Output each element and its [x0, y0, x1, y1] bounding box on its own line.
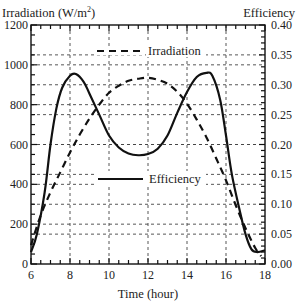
right-axis-title: Efficiency: [243, 6, 296, 20]
right-tick-label: 0.15: [271, 167, 292, 181]
left-tick-label: 800: [10, 98, 28, 112]
legend-irradiation: Irradiation: [96, 41, 206, 58]
grid-lines: [31, 25, 265, 264]
right-tick-label: 0.05: [271, 227, 292, 241]
chart: 681012141618 020040060080010001200 0.000…: [0, 0, 297, 306]
left-axis-tick-labels: 020040060080010001200: [4, 18, 28, 271]
legend-efficiency: Efficiency: [96, 171, 206, 187]
x-axis-title: Time (hour): [118, 287, 178, 301]
right-tick-label: 0.40: [271, 18, 292, 32]
left-tick-label: 1200: [4, 18, 28, 32]
left-axis-title: Irradiation (W/m2): [2, 5, 95, 20]
x-tick-label: 6: [28, 268, 34, 282]
right-tick-label: 0.30: [271, 78, 292, 92]
right-tick-label: 0.35: [271, 48, 292, 62]
x-tick-label: 10: [103, 268, 115, 282]
x-tick-label: 16: [220, 268, 232, 282]
x-tick-label: 12: [142, 268, 154, 282]
right-axis-tick-labels: 0.000.050.100.150.200.250.300.350.40: [271, 18, 292, 271]
left-tick-label: 0: [22, 257, 28, 271]
left-tick-label: 200: [10, 217, 28, 231]
right-tick-label: 0.25: [271, 108, 292, 122]
right-tick-label: 0.10: [271, 197, 292, 211]
x-tick-label: 8: [67, 268, 73, 282]
left-tick-label: 1000: [4, 58, 28, 72]
x-axis-tick-labels: 681012141618: [28, 268, 271, 282]
legend-irradiation-label: Irradiation: [148, 44, 202, 58]
right-tick-label: 0.00: [271, 257, 292, 271]
x-tick-label: 14: [181, 268, 193, 282]
left-tick-label: 400: [10, 177, 28, 191]
left-tick-label: 600: [10, 138, 28, 152]
right-tick-label: 0.20: [271, 138, 292, 152]
x-tick-label: 18: [259, 268, 271, 282]
legend-efficiency-label: Efficiency: [149, 172, 202, 186]
